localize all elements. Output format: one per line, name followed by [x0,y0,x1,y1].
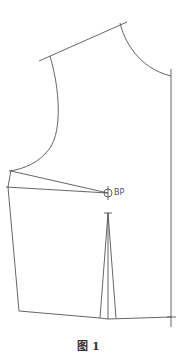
bodice-pattern-diagram [0,0,177,362]
waist-dart-right-leg [108,213,116,318]
figure-caption: 图 1 [0,337,177,353]
neckline-curve [120,23,171,76]
shoulder-line [39,22,127,61]
armhole-curve [9,56,58,171]
bust-dart-lower [6,187,108,193]
waist-dart-left-leg [100,213,108,318]
side-seam [8,170,19,311]
bust-point-label: BP [114,188,124,197]
hem-line [19,311,171,319]
